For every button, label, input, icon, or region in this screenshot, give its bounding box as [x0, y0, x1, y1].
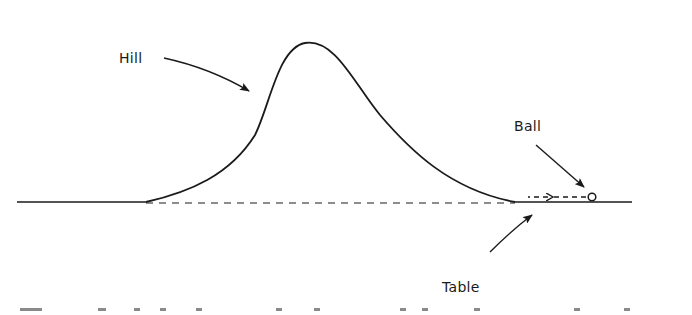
caption-cropped: [14, 308, 684, 315]
ball-label: Ball: [514, 119, 541, 133]
hill-ball-diagram: [0, 0, 692, 315]
table-label: Table: [442, 280, 480, 294]
hill-curve: [146, 43, 515, 202]
ball-pointer-arrow: [536, 145, 584, 187]
hill-label: Hill: [119, 51, 142, 65]
table-pointer-arrow: [490, 215, 532, 252]
hill-pointer-arrow: [164, 58, 249, 91]
ball-icon: [588, 193, 596, 201]
